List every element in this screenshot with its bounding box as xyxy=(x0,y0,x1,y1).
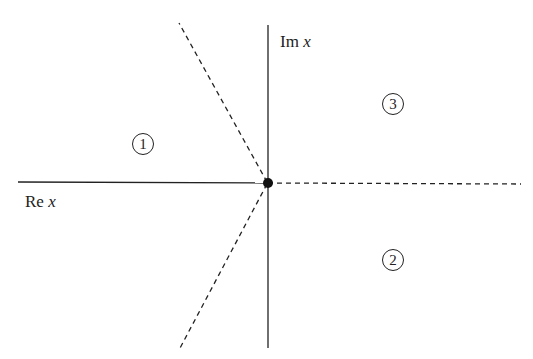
im-var: x xyxy=(303,32,311,51)
positive-real-axis-dashed xyxy=(268,183,521,184)
lower-left-dashed-ray xyxy=(179,184,267,350)
region-2-marker: 2 xyxy=(382,249,404,271)
region-1-label: 1 xyxy=(139,136,147,153)
region-3-label: 3 xyxy=(389,96,397,113)
complex-plane-diagram xyxy=(0,0,533,359)
region-2-label: 2 xyxy=(389,252,397,269)
region-3-marker: 3 xyxy=(382,93,404,115)
re-var: x xyxy=(48,192,56,211)
origin-point xyxy=(263,178,273,188)
imaginary-axis-label: Im x xyxy=(280,32,311,52)
region-1-marker: 1 xyxy=(132,133,154,155)
im-text: Im xyxy=(280,32,299,51)
re-text: Re xyxy=(25,192,44,211)
upper-left-dashed-ray xyxy=(179,23,267,182)
real-axis-label: Re x xyxy=(25,192,56,212)
negative-real-axis xyxy=(18,182,268,183)
